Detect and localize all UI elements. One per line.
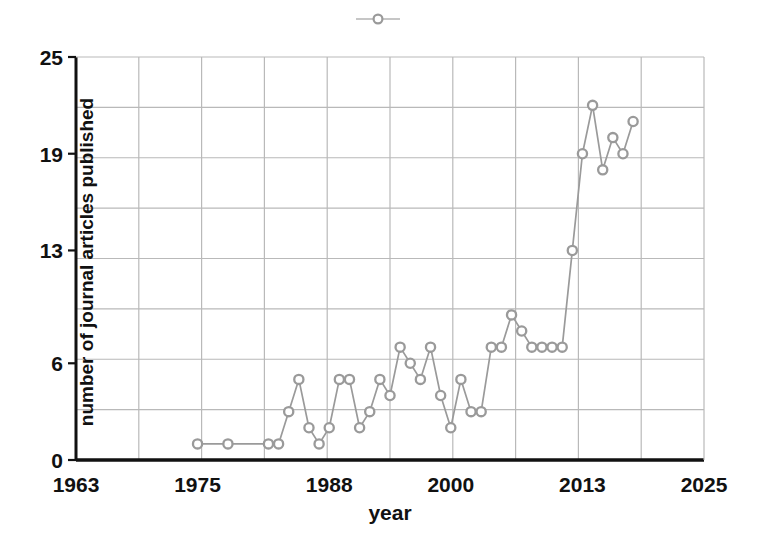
data-point-marker <box>487 343 496 352</box>
data-point-marker <box>365 407 374 416</box>
data-point-marker <box>385 391 394 400</box>
data-point-marker <box>456 375 465 384</box>
x-axis-title: year <box>368 501 411 524</box>
data-point-marker <box>406 359 415 368</box>
y-tick-label: 6 <box>51 352 63 375</box>
y-tick-label: 19 <box>40 143 63 166</box>
data-point-marker <box>527 343 536 352</box>
data-point-marker <box>325 423 334 432</box>
data-point-marker <box>578 149 587 158</box>
data-point-marker <box>618 149 627 158</box>
data-point-marker <box>375 375 384 384</box>
data-point-marker <box>608 133 617 142</box>
data-point-marker <box>507 310 516 319</box>
journal-articles-line-chart: 06131925 196319751988200020132025 year n… <box>0 0 759 546</box>
x-tick-label: 1975 <box>174 473 221 496</box>
data-point-marker <box>436 391 445 400</box>
data-point-marker <box>345 375 354 384</box>
data-point-marker <box>588 101 597 110</box>
data-point-marker <box>416 375 425 384</box>
data-point-marker <box>335 375 344 384</box>
data-point-marker <box>629 117 638 126</box>
y-axis-title: number of journal articles published <box>76 98 97 426</box>
chart-page: 06131925 196319751988200020132025 year n… <box>0 0 759 546</box>
x-tick-label: 1963 <box>53 473 100 496</box>
data-point-marker <box>274 439 283 448</box>
data-point-marker <box>355 423 364 432</box>
data-point-marker <box>315 439 324 448</box>
data-point-marker <box>264 439 273 448</box>
data-point-marker <box>446 423 455 432</box>
x-tick-label: 2013 <box>559 473 606 496</box>
y-tick-label: 0 <box>51 449 63 472</box>
data-point-marker <box>466 407 475 416</box>
data-point-marker <box>547 343 556 352</box>
y-tick-label: 25 <box>40 46 64 69</box>
data-point-marker <box>537 343 546 352</box>
data-point-marker <box>193 439 202 448</box>
chart-background <box>0 0 759 546</box>
data-point-marker <box>477 407 486 416</box>
data-point-marker <box>558 343 567 352</box>
data-point-marker <box>497 343 506 352</box>
data-point-marker <box>517 326 526 335</box>
data-point-marker <box>396 343 405 352</box>
y-tick-label: 13 <box>40 239 63 262</box>
data-point-marker <box>426 343 435 352</box>
x-tick-label: 2000 <box>427 473 474 496</box>
data-point-marker <box>304 423 313 432</box>
x-tick-label: 1988 <box>306 473 353 496</box>
data-point-marker <box>223 439 232 448</box>
data-point-marker <box>568 246 577 255</box>
data-point-marker <box>598 165 607 174</box>
legend-marker-icon <box>374 15 383 24</box>
data-point-marker <box>284 407 293 416</box>
data-point-marker <box>294 375 303 384</box>
x-tick-label: 2025 <box>681 473 728 496</box>
